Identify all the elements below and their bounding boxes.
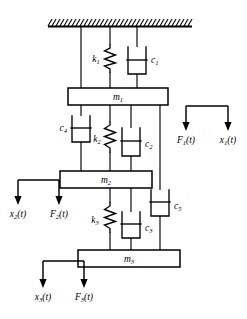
displacement-x1-arrowhead xyxy=(224,122,231,131)
spring-k2 xyxy=(105,122,116,152)
spring-k2-label: k2 xyxy=(93,134,101,145)
mass-m3: m3 xyxy=(78,250,180,267)
fixed-support xyxy=(48,19,192,27)
diagram-canvas: k1 k2 k3 c1 c2 c3 xyxy=(0,0,247,319)
damper-c2-label: c2 xyxy=(145,139,153,150)
spring-k3-label: k3 xyxy=(91,215,99,226)
force-group-3: x3(t) F3(t) xyxy=(34,261,93,303)
spring-k1-label: k1 xyxy=(92,54,100,65)
spring-k1 xyxy=(105,45,116,72)
damper-c5 xyxy=(150,190,170,216)
force-f1-arrowhead xyxy=(182,122,189,131)
displacement-x3-label: x3(t) xyxy=(34,292,51,303)
damper-c4 xyxy=(71,116,91,142)
displacement-x2-arrowhead xyxy=(14,196,21,205)
damper-c4-label: c4 xyxy=(59,123,67,134)
force-group-1: F1(t) x1(t) xyxy=(176,106,236,146)
vibration-system-diagram: k1 k2 k3 c1 c2 c3 xyxy=(0,0,247,319)
force-f3-label: F3(t) xyxy=(74,292,93,303)
damper-c5-label: c5 xyxy=(174,201,182,212)
damper-c3 xyxy=(121,212,141,238)
damper-c1-label: c1 xyxy=(151,55,159,66)
mass-m2: m2 xyxy=(60,171,152,188)
force-f2-label: F2(t) xyxy=(49,209,68,220)
force-f2-arrowhead xyxy=(55,196,62,205)
damper-c2 xyxy=(121,128,141,156)
damper-c3-label: c3 xyxy=(145,223,153,234)
spring-k3 xyxy=(105,203,116,232)
damper-c1 xyxy=(127,47,147,74)
displacement-x1-label: x1(t) xyxy=(219,135,236,146)
ceiling-hatching xyxy=(48,19,192,26)
mass-m1: m1 xyxy=(68,88,168,105)
force-group-2: x2(t) F2(t) xyxy=(9,180,68,220)
displacement-x3-arrowhead xyxy=(39,279,46,288)
force-f3-arrowhead xyxy=(80,279,87,288)
force-f1-label: F1(t) xyxy=(176,135,195,146)
displacement-x2-label: x2(t) xyxy=(9,209,26,220)
